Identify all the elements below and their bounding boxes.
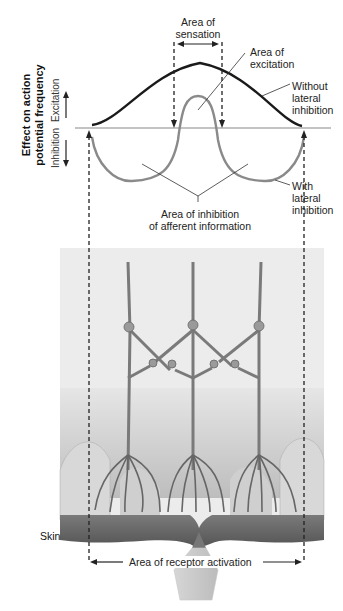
without-lateral-inhibition-label: Without lateral inhibition [292, 80, 333, 116]
label-line: With [292, 180, 333, 192]
label-line: inhibition [292, 204, 333, 216]
label-line: lateral [292, 92, 333, 104]
area-of-sensation-label: Area of sensation [168, 16, 228, 40]
with-lateral-inhibition-label: With lateral inhibition [292, 180, 333, 216]
label-line: Without [292, 80, 333, 92]
y-axis-title-line1: Effect on action [20, 60, 33, 170]
curve-without-lateral-inhibition [92, 63, 302, 126]
label-line: Area of [168, 16, 228, 28]
skin-label: Skin [40, 530, 60, 542]
skin-layer [60, 515, 324, 547]
label-line: sensation [168, 28, 228, 40]
y-axis-title: Effect on action potential frequency [20, 60, 46, 170]
receptor-activation-label: Area of receptor activation [127, 556, 254, 568]
inhibition-label: Inhibition [50, 128, 61, 168]
label-line: inhibition [292, 104, 333, 116]
y-axis-title-line2: potential frequency [33, 60, 46, 170]
label-line: excitation [250, 58, 294, 70]
label-line: Area of [250, 46, 294, 58]
area-of-inhibition-label: Area of inhibition of afferent informati… [140, 208, 260, 232]
label-line: of afferent information [140, 220, 260, 232]
area-of-excitation-label: Area of excitation [250, 46, 294, 70]
label-line: lateral [292, 192, 333, 204]
excitation-label: Excitation [50, 79, 61, 122]
label-line: Area of inhibition [140, 208, 260, 220]
